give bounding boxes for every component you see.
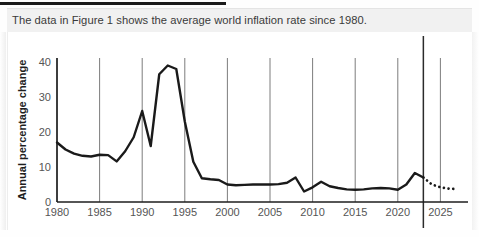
x-tick-label-2010: 2010 <box>300 206 324 218</box>
y-tick-label-20: 20 <box>39 126 51 138</box>
inflation-line-chart: 0102030401980198519901995200020052010201… <box>0 0 479 237</box>
y-axis-title: Annual percentage change <box>16 60 28 201</box>
x-tick-label-1990: 1990 <box>130 206 154 218</box>
y-tick-label-10: 10 <box>39 161 51 173</box>
x-tick-label-2025: 2025 <box>428 206 452 218</box>
x-tick-label-2000: 2000 <box>215 206 239 218</box>
y-tick-label-40: 40 <box>39 56 51 68</box>
x-tick-label-2020: 2020 <box>386 206 410 218</box>
x-tick-label-1995: 1995 <box>173 206 197 218</box>
x-tick-label-2005: 2005 <box>258 206 282 218</box>
screenshot-root: The data in Figure 1 shows the average w… <box>0 0 479 237</box>
x-tick-label-1980: 1980 <box>45 206 69 218</box>
x-tick-label-1985: 1985 <box>87 206 111 218</box>
series-actual <box>57 66 423 192</box>
x-tick-label-2015: 2015 <box>343 206 367 218</box>
y-tick-label-30: 30 <box>39 91 51 103</box>
